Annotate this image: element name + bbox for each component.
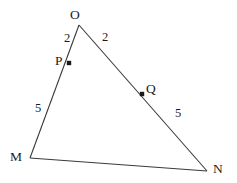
figure-canvas: O M N P Q 2 2 5 5: [0, 0, 237, 183]
point-marker-p: [67, 61, 71, 65]
triangle-diagram: [0, 0, 237, 183]
point-marker-q: [140, 92, 144, 96]
vertex-label-n: N: [213, 162, 223, 175]
segment-m-n: [30, 158, 207, 171]
segment-o-m: [30, 25, 79, 158]
length-label-oq: 2: [102, 31, 108, 44]
vertex-label-m: M: [10, 150, 22, 163]
segment-o-n: [79, 25, 207, 171]
point-label-p: P: [55, 54, 63, 67]
length-label-op: 2: [64, 32, 70, 45]
point-label-q: Q: [146, 82, 156, 95]
length-label-qn: 5: [175, 107, 181, 120]
length-label-pm: 5: [35, 102, 41, 115]
vertex-label-o: O: [70, 8, 80, 21]
